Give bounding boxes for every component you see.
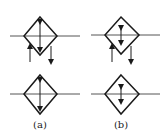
diagram-canvas: (a) (b) — [0, 0, 168, 140]
panel-b-top-symbol — [91, 17, 160, 62]
panel-a-top-symbol — [10, 17, 80, 62]
panel-a-label: (a) — [33, 119, 47, 130]
panel-b-label: (b) — [114, 119, 128, 130]
panel-a-bottom-symbol — [10, 75, 80, 114]
panel-b-bottom-symbol — [91, 75, 160, 114]
